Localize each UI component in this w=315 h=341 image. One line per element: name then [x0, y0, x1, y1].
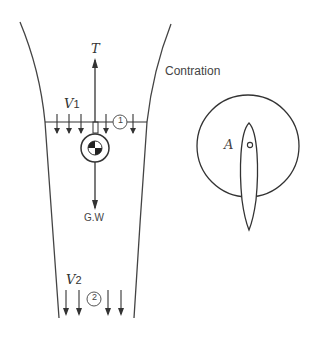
point-a-label: A — [224, 137, 233, 152]
streamtube-diagram — [0, 0, 315, 341]
cg-symbol-icon — [88, 141, 102, 155]
station-1-label: 1 — [117, 115, 124, 125]
v2-label: V2 — [66, 272, 82, 287]
v1-symbol: V — [64, 96, 73, 111]
v2-symbol: V — [66, 272, 75, 287]
blade-hinge-point-icon — [247, 142, 252, 147]
station-2-label: 2 — [91, 292, 98, 302]
thrust-label: T — [91, 41, 100, 56]
rotor-mast — [93, 122, 98, 133]
weight-label: G.W — [84, 212, 104, 223]
v2-subscript: 2 — [75, 274, 81, 286]
contraction-label: Contration — [165, 64, 220, 78]
streamtube-left-wall — [20, 22, 59, 318]
weight-arrowhead-icon — [92, 200, 98, 210]
thrust-arrowhead-icon — [92, 58, 98, 68]
v1-label: V1 — [64, 96, 80, 111]
v1-subscript: 1 — [73, 98, 79, 110]
rotor-blade — [240, 123, 257, 230]
